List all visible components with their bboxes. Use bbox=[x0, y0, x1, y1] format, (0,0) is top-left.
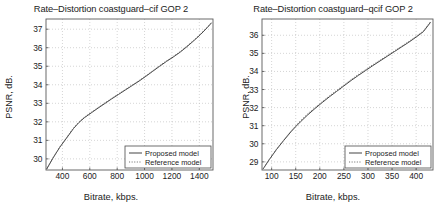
x-tick-label: 350 bbox=[385, 171, 399, 181]
x-tick-label: 150 bbox=[289, 171, 303, 181]
y-tick-label: 36 bbox=[33, 43, 43, 53]
y-tick-label: 31 bbox=[33, 135, 43, 145]
legend-label-proposed: Proposed model bbox=[145, 149, 199, 158]
y-axis-label-cif: PSNR, dB. bbox=[4, 67, 14, 127]
y-tick-label: 33 bbox=[33, 98, 43, 108]
x-tick-label: 1200 bbox=[163, 171, 182, 181]
x-tick-label: 250 bbox=[337, 171, 351, 181]
y-tick-label: 34 bbox=[33, 80, 43, 90]
x-tick-label: 100 bbox=[265, 171, 279, 181]
y-tick-label: 32 bbox=[33, 117, 43, 127]
x-axis-label-cif: Bitrate, kbps. bbox=[0, 192, 222, 202]
y-tick-label: 30 bbox=[249, 139, 259, 149]
y-tick-label: 36 bbox=[249, 30, 259, 40]
y-tick-label: 35 bbox=[33, 61, 43, 71]
x-tick-label: 1000 bbox=[135, 171, 154, 181]
x-tick-label: 400 bbox=[409, 171, 423, 181]
plot-area-cif: 4006008001000120014003031323334353637Pro… bbox=[0, 0, 222, 210]
x-tick-label: 400 bbox=[55, 171, 69, 181]
plot-area-qcif: 1001502002503003504002930313233343536Pro… bbox=[222, 0, 445, 210]
x-axis-label-qcif: Bitrate, kbps. bbox=[222, 192, 444, 202]
x-tick-label: 800 bbox=[110, 171, 124, 181]
y-tick-label: 30 bbox=[33, 154, 43, 164]
rate-distortion-figure: Rate–Distortion coastguard–cif GOP 2 400… bbox=[0, 0, 445, 210]
legend: Proposed modelReference model bbox=[125, 146, 211, 168]
chart-panel-qcif: Rate–Distortion coastguard–qcif GOP 2 10… bbox=[222, 0, 444, 210]
x-tick-label: 1400 bbox=[190, 171, 209, 181]
y-tick-label: 35 bbox=[249, 48, 259, 58]
legend-label-reference: Reference model bbox=[145, 158, 202, 167]
chart-panel-cif: Rate–Distortion coastguard–cif GOP 2 400… bbox=[0, 0, 222, 210]
x-tick-label: 300 bbox=[361, 171, 375, 181]
x-tick-label: 200 bbox=[313, 171, 327, 181]
legend-label-proposed: Proposed model bbox=[365, 149, 419, 158]
legend-label-reference: Reference model bbox=[365, 158, 422, 167]
y-tick-label: 29 bbox=[249, 157, 259, 167]
legend: Proposed modelReference model bbox=[345, 146, 431, 168]
y-axis-label-qcif: PSNR, dB. bbox=[241, 67, 251, 127]
y-tick-label: 37 bbox=[33, 24, 43, 34]
x-tick-label: 600 bbox=[83, 171, 97, 181]
